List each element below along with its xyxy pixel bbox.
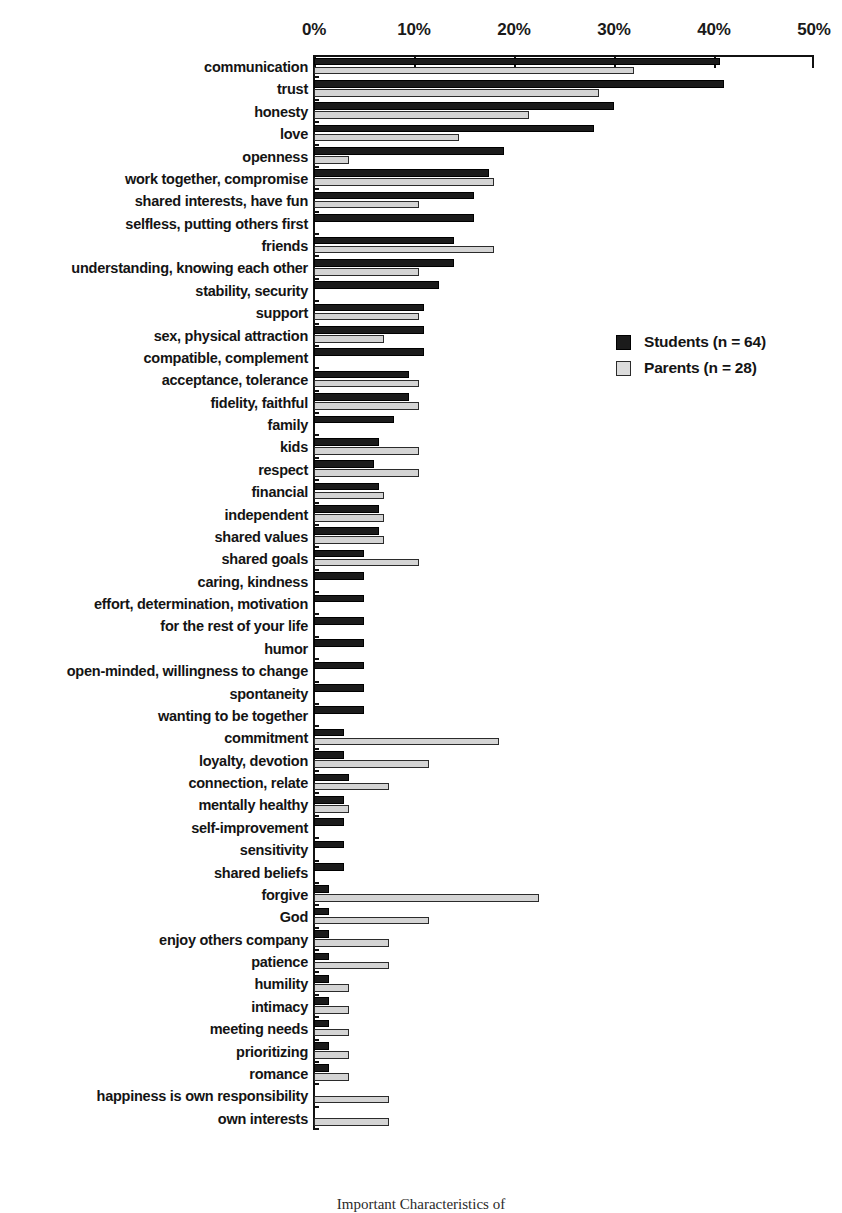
bar-row: romance [0,1063,842,1085]
bar-students [314,125,594,133]
bar-row: prioritizing [0,1041,842,1063]
bar-students [314,863,344,871]
y-axis-tick [314,1128,319,1130]
bar-row: trust [0,78,842,100]
category-label: self-improvement [8,818,308,838]
bar-students [314,192,474,200]
bar-students [314,281,439,289]
bar-row: stability, security [0,280,842,302]
bar-row: honesty [0,101,842,123]
bar-row: own interests [0,1108,842,1130]
category-label: support [8,303,308,323]
bar-row: humility [0,973,842,995]
category-label: independent [8,505,308,525]
bar-students [314,774,349,782]
bar-students [314,1020,329,1028]
category-label: meeting needs [8,1019,308,1039]
category-label: honesty [8,102,308,122]
category-label: shared goals [8,549,308,569]
category-label: enjoy others company [8,930,308,950]
category-label: connection, relate [8,773,308,793]
legend-item-students: Students (n = 64) [616,330,826,354]
bar-row: patience [0,951,842,973]
bar-row: understanding, knowing each other [0,257,842,279]
bar-row: meeting needs [0,1018,842,1040]
bar-students [314,438,379,446]
bar-students [314,595,364,603]
category-label: patience [8,952,308,972]
legend-label-parents: Parents (n = 28) [644,359,757,377]
category-label: humor [8,639,308,659]
legend-item-parents: Parents (n = 28) [616,356,826,380]
category-label: financial [8,482,308,502]
bar-chart: 0%10%20%30%40%50% communicationtrusthone… [0,0,842,1213]
bar-students [314,662,364,670]
bar-row: forgive [0,884,842,906]
bar-parents [314,156,349,164]
category-label: shared beliefs [8,863,308,883]
category-label: spontaneity [8,684,308,704]
x-tick-label-50pct: 50% [797,20,830,40]
x-tick-label-10pct: 10% [397,20,430,40]
bar-parents [314,134,459,142]
bar-parents [314,335,384,343]
bar-students [314,930,329,938]
x-axis-tick-labels: 0%10%20%30%40%50% [0,20,842,46]
category-label: love [8,124,308,144]
bar-students [314,237,454,245]
bar-students [314,102,614,110]
bar-row: effort, determination, motivation [0,593,842,615]
bar-parents [314,1029,349,1037]
bar-students [314,326,424,334]
bar-row: openness [0,146,842,168]
bar-students [314,639,364,647]
bar-parents [314,939,389,947]
category-label: kids [8,437,308,457]
bar-parents [314,559,419,567]
bar-students [314,348,424,356]
bar-row: loyalty, devotion [0,750,842,772]
bar-row: sensitivity [0,839,842,861]
bar-row: respect [0,459,842,481]
category-label: loyalty, devotion [8,751,308,771]
bar-parents [314,738,499,746]
bar-students [314,684,364,692]
bar-parents [314,380,419,388]
bar-students [314,393,409,401]
bar-students [314,818,344,826]
category-label: humility [8,974,308,994]
bar-row: humor [0,638,842,660]
category-label: trust [8,79,308,99]
bar-students [314,975,329,983]
category-label: fidelity, faithful [8,393,308,413]
bar-row: shared goals [0,548,842,570]
bar-parents [314,89,599,97]
bar-students [314,796,344,804]
category-label: respect [8,460,308,480]
bar-students [314,371,409,379]
category-label: sex, physical attraction [8,326,308,346]
bar-row: communication [0,56,842,78]
x-tick-label-0pct: 0% [302,20,326,40]
bar-students [314,147,504,155]
category-label: happiness is own responsibility [8,1086,308,1106]
category-label: intimacy [8,997,308,1017]
bar-row: independent [0,504,842,526]
bar-parents [314,984,349,992]
bar-students [314,505,379,513]
bar-students [314,572,364,580]
bar-row: intimacy [0,996,842,1018]
bar-parents [314,469,419,477]
bar-parents [314,67,634,75]
bar-students [314,483,379,491]
category-label: God [8,907,308,927]
bar-row: happiness is own responsibility [0,1085,842,1107]
bar-parents [314,111,529,119]
bar-students [314,953,329,961]
category-label: mentally healthy [8,795,308,815]
bar-row: connection, relate [0,772,842,794]
legend-swatch-parents-icon [616,361,631,376]
bar-row: God [0,906,842,928]
bar-parents [314,201,419,209]
bar-parents [314,402,419,410]
